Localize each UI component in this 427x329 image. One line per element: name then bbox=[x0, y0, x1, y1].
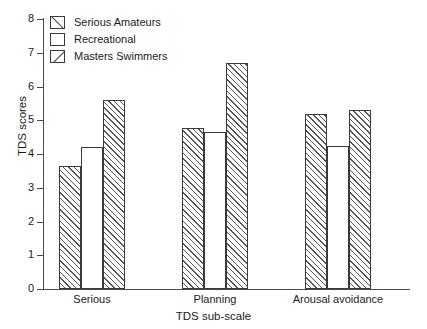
y-tick-mark bbox=[37, 53, 43, 54]
legend-item-serious-amateurs: Serious Amateurs bbox=[50, 14, 215, 30]
x-group-label: Planning bbox=[155, 293, 275, 305]
x-group-label: Arousal avoidance bbox=[278, 293, 398, 305]
y-tick-mark bbox=[37, 222, 43, 223]
legend-swatch-empty-icon bbox=[50, 33, 65, 46]
bar bbox=[81, 147, 103, 289]
bar bbox=[204, 132, 226, 289]
x-axis-line bbox=[43, 289, 410, 290]
bar bbox=[305, 114, 327, 290]
y-tick-label: 7 bbox=[20, 47, 34, 58]
legend-item-masters-swimmers: Masters Swimmers bbox=[50, 48, 215, 64]
legend-swatch-diagonal-backslash-icon bbox=[50, 16, 65, 29]
y-tick-label: 2 bbox=[20, 216, 34, 227]
chart-legend: Serious Amateurs Recreational Masters Sw… bbox=[50, 14, 215, 65]
legend-swatch-diagonal-forwardslash-icon bbox=[50, 50, 65, 63]
y-tick-label: 1 bbox=[20, 249, 34, 260]
y-axis-title: TDS scores bbox=[16, 66, 28, 186]
bar bbox=[327, 146, 349, 289]
y-tick-mark bbox=[37, 19, 43, 20]
y-tick-mark bbox=[37, 255, 43, 256]
bar bbox=[349, 110, 371, 289]
y-tick-mark bbox=[37, 154, 43, 155]
y-tick-label: 8 bbox=[20, 13, 34, 24]
bar-chart-figure: 012345678 TDS scores TDS sub-scale Serio… bbox=[0, 0, 427, 329]
y-tick-mark bbox=[37, 289, 43, 290]
bar bbox=[226, 63, 248, 289]
x-axis-title: TDS sub-scale bbox=[0, 310, 427, 322]
legend-label: Masters Swimmers bbox=[74, 50, 168, 62]
bar bbox=[182, 128, 204, 289]
legend-label: Recreational bbox=[74, 33, 136, 45]
legend-label: Serious Amateurs bbox=[74, 16, 161, 28]
bar bbox=[59, 166, 81, 289]
y-tick-mark bbox=[37, 87, 43, 88]
x-group-label: Serious bbox=[32, 293, 152, 305]
y-tick-mark bbox=[37, 188, 43, 189]
legend-item-recreational: Recreational bbox=[50, 31, 215, 47]
bar bbox=[103, 100, 125, 289]
y-tick-mark bbox=[37, 120, 43, 121]
